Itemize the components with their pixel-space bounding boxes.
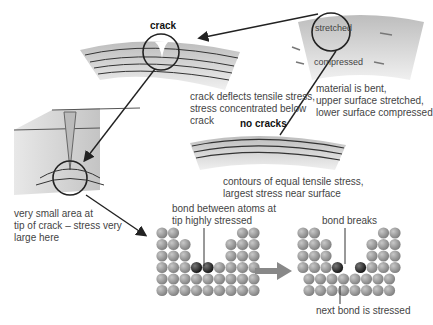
bent-desc-3: lower surface compressed xyxy=(316,107,433,119)
crack-title: crack xyxy=(150,20,176,32)
transition-arrow-icon xyxy=(255,262,292,280)
no-cracks-desc-2: largest stress near surface xyxy=(223,188,341,200)
no-cracks-desc-1: contours of equal tensile stress, xyxy=(223,176,364,188)
bond-stressed-2: tip highly stressed xyxy=(172,215,252,227)
atom-lattice-after xyxy=(297,227,400,296)
tip-desc-3: large here xyxy=(14,232,59,244)
tip-desc-1: very small area at xyxy=(14,208,93,220)
tip-desc-2: tip of crack – stress very xyxy=(14,220,122,232)
compressed-label: compressed xyxy=(314,56,363,68)
crack-desc-3: crack xyxy=(190,115,214,127)
bent-desc-2: upper surface stretched, xyxy=(316,95,424,107)
bent-material xyxy=(292,13,424,80)
bent-desc-1: material is bent, xyxy=(316,83,387,95)
bond-breaks-label: bond breaks xyxy=(322,215,377,227)
cracked-material xyxy=(80,34,240,90)
stretched-label: stretched xyxy=(315,22,352,34)
no-cracks-title: no cracks xyxy=(240,118,287,130)
no-cracks-material xyxy=(190,136,346,170)
bond-stressed-1: bond between atoms at xyxy=(172,203,276,215)
next-bond-label: next bond is stressed xyxy=(316,305,411,317)
atom-lattice-before xyxy=(156,227,259,296)
crack-desc-1: crack deflects tensile stress, xyxy=(190,91,315,103)
crack-desc-2: stress concentrated below xyxy=(190,103,306,115)
crack-block xyxy=(14,108,140,195)
